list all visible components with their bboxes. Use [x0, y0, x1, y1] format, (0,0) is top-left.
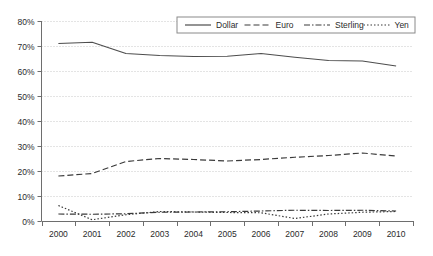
legend-label-euro: Euro — [276, 20, 294, 30]
y-axis-tick-labels: 0%10%20%30%40%50%60%70%80% — [17, 17, 34, 227]
x-axis-tick-label: 2002 — [116, 229, 135, 239]
line-chart: 0%10%20%30%40%50%60%70%80% 2000200120022… — [0, 0, 433, 256]
legend-border — [177, 17, 415, 33]
x-axis-tick-label: 2000 — [49, 229, 68, 239]
y-axis-tick-label: 10% — [17, 192, 34, 202]
x-axis-tick-label: 2003 — [150, 229, 169, 239]
chart-background — [0, 0, 433, 256]
x-axis-tick-label: 2008 — [319, 229, 338, 239]
chart-legend: DollarEuroSterlingYen — [177, 17, 415, 33]
y-axis-tick-label: 40% — [17, 117, 34, 127]
x-axis-tick-label: 2010 — [387, 229, 406, 239]
chart-container: 0%10%20%30%40%50%60%70%80% 2000200120022… — [0, 0, 433, 256]
x-axis-tick-label: 2006 — [252, 229, 271, 239]
legend-label-sterling: Sterling — [335, 20, 364, 30]
y-axis-tick-label: 20% — [17, 167, 34, 177]
y-axis-tick-label: 80% — [17, 17, 34, 27]
x-axis-tick-label: 2001 — [83, 229, 102, 239]
y-axis-tick-label: 70% — [17, 42, 34, 52]
x-axis-tick-label: 2004 — [184, 229, 203, 239]
x-axis-tick-label: 2007 — [285, 229, 304, 239]
y-axis-tick-label: 30% — [17, 142, 34, 152]
legend-label-dollar: Dollar — [216, 20, 238, 30]
x-axis-tick-label: 2005 — [218, 229, 237, 239]
legend-label-yen: Yen — [395, 20, 410, 30]
x-axis-tick-label: 2009 — [353, 229, 372, 239]
y-axis-tick-label: 0% — [22, 217, 35, 227]
y-axis-tick-label: 50% — [17, 92, 34, 102]
y-axis-tick-label: 60% — [17, 67, 34, 77]
